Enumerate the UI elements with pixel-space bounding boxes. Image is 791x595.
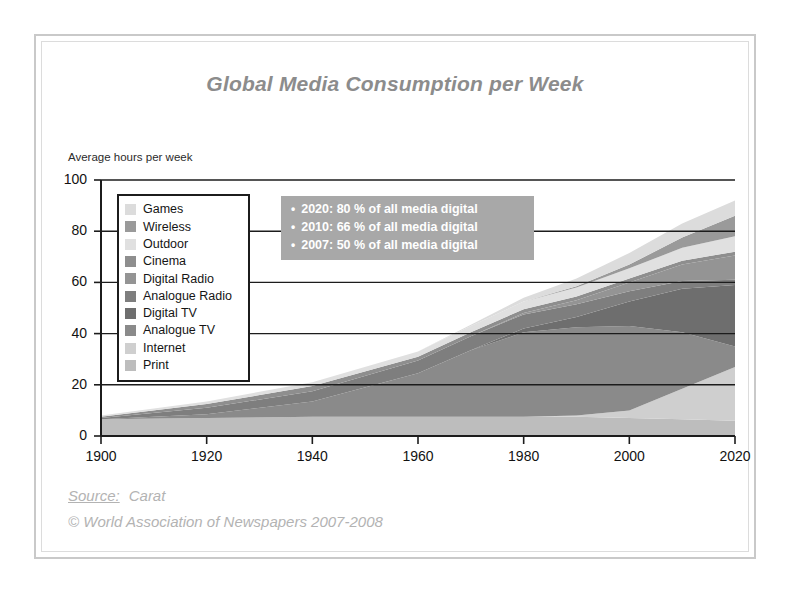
y-tick-label: 80 (53, 222, 87, 238)
legend-item-label: Games (143, 203, 183, 216)
y-tick-label: 60 (53, 273, 87, 289)
annotation-callout: •2020: 80 % of all media digital•2010: 6… (281, 196, 534, 260)
legend-item: Games (125, 201, 242, 218)
bullet-icon: • (291, 219, 295, 236)
legend-item-label: Internet (143, 342, 185, 355)
legend-item-label: Wireless (143, 221, 191, 234)
copyright-line: © World Association of Newspapers 2007-2… (68, 513, 383, 530)
callout-line: •2010: 66 % of all media digital (291, 219, 524, 237)
legend-swatch-icon (125, 273, 136, 284)
bullet-icon: • (291, 237, 295, 254)
x-tick-label: 1920 (180, 448, 234, 464)
legend-item-label: Analogue Radio (143, 290, 232, 303)
callout-text: 2010: 66 % of all media digital (301, 219, 477, 237)
chart-legend: GamesWirelessOutdoorCinemaDigital RadioA… (117, 194, 250, 382)
legend-item-label: Outdoor (143, 238, 188, 251)
x-tick-label: 2000 (602, 448, 656, 464)
legend-item: Analogue Radio (125, 287, 242, 304)
legend-swatch-icon (125, 360, 136, 371)
legend-item: Analogue TV (125, 322, 242, 339)
source-line: Source:Carat (68, 487, 165, 504)
legend-item-label: Cinema (143, 255, 186, 268)
legend-item-label: Analogue TV (143, 324, 215, 337)
x-tick-label: 2020 (708, 448, 762, 464)
legend-swatch-icon (125, 291, 136, 302)
legend-item: Internet (125, 339, 242, 356)
source-label: Source: (68, 487, 120, 504)
legend-item-label: Digital TV (143, 307, 197, 320)
area-band (101, 417, 735, 436)
x-tick-label: 1980 (497, 448, 551, 464)
y-tick-label: 100 (53, 171, 87, 187)
x-tick-label: 1960 (391, 448, 445, 464)
legend-swatch-icon (125, 325, 136, 336)
x-tick-label: 1900 (74, 448, 128, 464)
legend-swatch-icon (125, 343, 136, 354)
legend-item: Wireless (125, 218, 242, 235)
callout-text: 2007: 50 % of all media digital (301, 237, 477, 255)
callout-line: •2020: 80 % of all media digital (291, 201, 524, 219)
y-tick-label: 20 (53, 376, 87, 392)
chart-page: Global Media Consumption per Week Averag… (0, 0, 791, 595)
legend-swatch-icon (125, 204, 136, 215)
source-value: Carat (129, 487, 166, 504)
legend-item-label: Digital Radio (143, 273, 214, 286)
legend-item: Digital TV (125, 305, 242, 322)
bullet-icon: • (291, 201, 295, 218)
x-tick-label: 1940 (285, 448, 339, 464)
legend-item-label: Print (143, 359, 169, 372)
y-tick-label: 0 (53, 427, 87, 443)
legend-item: Print (125, 357, 242, 374)
callout-text: 2020: 80 % of all media digital (301, 201, 477, 219)
legend-item: Cinema (125, 253, 242, 270)
legend-swatch-icon (125, 239, 136, 250)
legend-swatch-icon (125, 221, 136, 232)
legend-swatch-icon (125, 308, 136, 319)
legend-item: Digital Radio (125, 270, 242, 287)
legend-item: Outdoor (125, 236, 242, 253)
legend-swatch-icon (125, 256, 136, 267)
callout-line: •2007: 50 % of all media digital (291, 237, 524, 255)
y-tick-label: 40 (53, 325, 87, 341)
